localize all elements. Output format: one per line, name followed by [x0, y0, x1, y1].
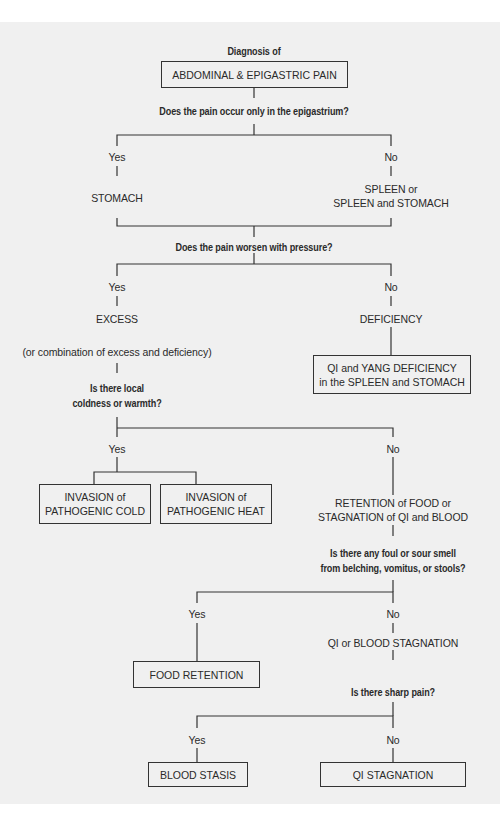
- question-pressure: Does the pain worsen with pressure?: [175, 240, 332, 254]
- heat-box-line1: INVASION of: [185, 490, 246, 504]
- stomach-result: STOMACH: [91, 191, 143, 205]
- question-smell-line1: Is there any foul or sour smell: [330, 546, 456, 560]
- retention-line1: RETENTION of FOOD or: [335, 496, 451, 510]
- question-coldness-line2: coldness or warmth?: [72, 396, 161, 410]
- q3-yes-label: Yes: [109, 442, 126, 456]
- q1-no-label: No: [384, 150, 397, 164]
- deficiency-box-line1: QI and YANG DEFICIENCY: [327, 361, 457, 375]
- q2-no-label: No: [384, 280, 397, 294]
- q1-yes-label: Yes: [109, 150, 126, 164]
- root-box: ABDOMINAL & EPIGASTRIC PAIN: [161, 61, 348, 88]
- q5-no-label: No: [386, 733, 399, 747]
- q4-no-label: No: [386, 607, 399, 621]
- question-epigastrium: Does the pain occur only in the epigastr…: [159, 104, 348, 118]
- diagram-title: Diagnosis of: [227, 44, 280, 58]
- q3-no-label: No: [386, 442, 399, 456]
- excess-note: (or combination of excess and deficiency…: [22, 345, 211, 359]
- question-coldness-line1: Is there local: [90, 381, 144, 395]
- deficiency-box-line2: in the SPLEEN and STOMACH: [319, 375, 465, 389]
- blood-stasis-box: BLOOD STASIS: [148, 762, 248, 787]
- pathogenic-cold-box: INVASION of PATHOGENIC COLD: [39, 484, 151, 524]
- q4-yes-label: Yes: [189, 607, 206, 621]
- blood-stasis-label: BLOOD STASIS: [160, 768, 236, 782]
- heat-box-line2: PATHOGENIC HEAT: [167, 504, 265, 518]
- cold-box-line2: PATHOGENIC COLD: [45, 504, 145, 518]
- qi-stagnation-label: QI STAGNATION: [353, 768, 434, 782]
- q2-yes-label: Yes: [109, 280, 126, 294]
- qi-yang-deficiency-box: QI and YANG DEFICIENCY in the SPLEEN and…: [313, 355, 471, 394]
- q5-yes-label: Yes: [189, 733, 206, 747]
- question-sharp-pain: Is there sharp pain?: [351, 685, 435, 699]
- pathogenic-heat-box: INVASION of PATHOGENIC HEAT: [160, 484, 272, 524]
- retention-line2: STAGNATION of QI and BLOOD: [318, 510, 468, 524]
- food-retention-box: FOOD RETENTION: [133, 661, 260, 688]
- spleen-result-line1: SPLEEN or: [365, 182, 418, 196]
- root-label: ABDOMINAL & EPIGASTRIC PAIN: [172, 68, 337, 82]
- spleen-result-line2: SPLEEN and STOMACH: [333, 196, 448, 210]
- question-smell-line2: from belching, vomitus, or stools?: [320, 561, 465, 575]
- excess-label: EXCESS: [96, 312, 138, 326]
- qi-blood-stagnation-label: QI or BLOOD STAGNATION: [328, 636, 458, 650]
- food-retention-label: FOOD RETENTION: [150, 668, 244, 682]
- deficiency-label: DEFICIENCY: [360, 312, 423, 326]
- cold-box-line1: INVASION of: [64, 490, 125, 504]
- qi-stagnation-box: QI STAGNATION: [320, 762, 466, 787]
